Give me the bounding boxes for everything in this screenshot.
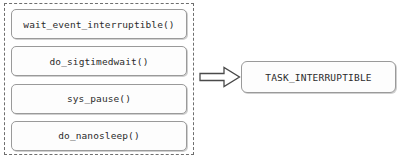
diagram-canvas: wait_event_interruptible() do_sigtimedwa…: [0, 0, 400, 162]
function-box-label: do_nanosleep(): [58, 130, 139, 141]
function-box-sys-pause[interactable]: sys_pause(): [11, 84, 187, 114]
block-arrow-right-icon: [199, 66, 241, 88]
function-box-label: sys_pause(): [67, 93, 131, 104]
function-box-wait-event-interruptible[interactable]: wait_event_interruptible(): [11, 9, 187, 39]
state-box-label: TASK_INTERRUPTIBLE: [265, 72, 372, 83]
function-group-container: wait_event_interruptible() do_sigtimedwa…: [4, 3, 194, 155]
function-box-label: wait_event_interruptible(): [23, 19, 174, 30]
function-box-do-sigtimedwait[interactable]: do_sigtimedwait(): [11, 46, 187, 76]
function-box-do-nanosleep[interactable]: do_nanosleep(): [11, 121, 187, 151]
function-box-label: do_sigtimedwait(): [50, 56, 149, 67]
state-box-task-interruptible[interactable]: TASK_INTERRUPTIBLE: [241, 61, 396, 93]
function-group-list: wait_event_interruptible() do_sigtimedwa…: [11, 9, 187, 151]
